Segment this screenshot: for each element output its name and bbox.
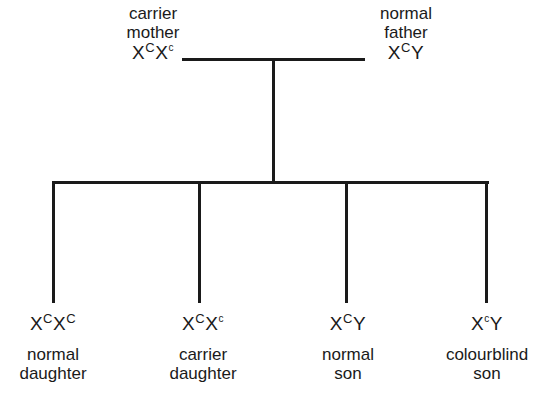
mother-genotype: XCXc — [127, 42, 180, 64]
child-genotype: XCXC — [19, 313, 86, 335]
father-node: normal father XCY — [380, 4, 432, 64]
allele-base: X — [471, 313, 484, 334]
mother-label-line1: carrier — [127, 4, 180, 23]
child-label-line2: son — [446, 364, 528, 383]
child-carrier-daughter: XCXc carrier daughter — [169, 313, 236, 383]
allele-dominant: C — [43, 311, 53, 326]
allele-dominant: C — [195, 311, 205, 326]
allele-base: X — [132, 42, 145, 63]
child-label-line1: carrier — [169, 345, 236, 364]
child-genotype: XcY — [446, 313, 528, 335]
father-label-line1: normal — [380, 4, 432, 23]
allele-base: X — [155, 42, 168, 63]
allele-dominant: C — [401, 40, 411, 55]
allele-base: X — [182, 313, 195, 334]
mother-node: carrier mother XCXc — [127, 4, 180, 64]
child-label-line2: son — [322, 364, 374, 383]
allele-recessive: c — [168, 42, 174, 53]
child-normal-daughter: XCXC normal daughter — [19, 313, 86, 383]
allele-base: X — [30, 313, 43, 334]
child-drop-line-1 — [52, 181, 55, 303]
offspring-stem-line — [272, 58, 275, 184]
allele-base: Y — [353, 313, 366, 334]
allele-recessive: c — [218, 313, 224, 324]
child-genotype: XCY — [322, 313, 374, 335]
sibling-line — [52, 181, 489, 184]
child-label-line1: normal — [322, 345, 374, 364]
allele-base: X — [53, 313, 66, 334]
allele-base: Y — [490, 313, 503, 334]
child-label-line1: colourblind — [446, 345, 528, 364]
child-label-line2: daughter — [169, 364, 236, 383]
child-drop-line-4 — [485, 181, 488, 303]
child-normal-son: XCY normal son — [322, 313, 374, 383]
allele-dominant: C — [145, 40, 155, 55]
father-genotype: XCY — [380, 42, 432, 64]
allele-base: Y — [411, 42, 424, 63]
allele-dominant: C — [343, 311, 353, 326]
allele-dominant: C — [66, 311, 76, 326]
child-label-line2: daughter — [19, 364, 86, 383]
allele-base: X — [205, 313, 218, 334]
allele-base: X — [388, 42, 401, 63]
child-label-line1: normal — [19, 345, 86, 364]
child-drop-line-3 — [345, 181, 348, 303]
child-colourblind-son: XcY colourblind son — [446, 313, 528, 383]
allele-base: X — [330, 313, 343, 334]
child-genotype: XCXc — [169, 313, 236, 335]
child-drop-line-2 — [198, 181, 201, 303]
